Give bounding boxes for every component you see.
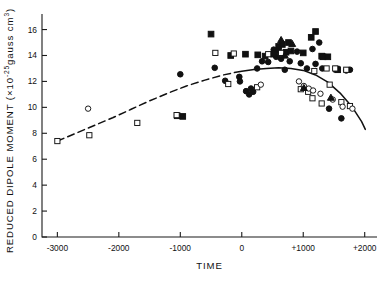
data-point-filled-square [325,54,331,60]
data-point-filled-triangle [278,36,285,42]
data-point-filled-circle [254,66,260,72]
x-tick-label-1: -2000 [108,243,130,253]
data-point-filled-circle [287,59,293,65]
series-open-circle [85,79,355,112]
data-point-filled-circle [310,46,316,52]
data-point-filled-circle [326,106,332,112]
data-point-open-square [310,96,315,101]
data-point-filled-circle [298,60,304,66]
y-tick-label-8: 16 [28,25,38,35]
data-point-filled-circle [313,61,319,67]
x-tick-label-0: -3000 [47,243,69,253]
data-point-open-square [55,138,60,143]
data-point-filled-square [313,29,319,35]
data-point-open-circle [296,79,301,84]
x-axis-title: TIME [196,260,223,271]
scatter-plot: -3000-2000-10000+1000+2000TIME0246810121… [0,0,387,282]
data-point-open-square [231,51,236,56]
data-point-filled-circle [304,66,310,72]
data-point-open-square [174,113,179,118]
data-point-filled-square [288,48,294,54]
axis-lines [42,14,377,237]
data-point-open-square [319,101,324,106]
data-point-filled-square [255,52,261,58]
y-tick-label-0: 0 [32,232,37,242]
y-tick-label-6: 12 [28,76,38,86]
y-tick-label-5: 10 [28,102,38,112]
data-point-filled-circle [212,65,218,71]
data-point-open-circle [350,106,355,111]
data-point-open-circle [258,82,263,87]
y-tick-label-1: 2 [32,206,37,216]
x-tick-label-4: +1000 [291,243,315,253]
data-point-open-square [324,66,329,71]
trend-curve-dashed [57,73,234,141]
data-point-filled-circle [294,49,300,55]
data-point-filled-circle [282,67,288,73]
data-point-open-circle [318,91,323,96]
y-tick-label-2: 4 [32,180,37,190]
data-point-open-square [87,133,92,138]
series-open-square [55,50,353,143]
data-point-filled-circle [237,79,243,85]
data-point-filled-square [243,51,249,57]
data-point-open-square [327,82,332,87]
data-point-filled-square [208,31,214,37]
data-point-filled-circle [178,71,184,77]
data-point-filled-square [300,50,306,56]
data-point-open-square [344,67,349,72]
data-point-open-square [266,52,271,57]
data-point-filled-square [308,35,314,41]
data-point-filled-square [180,114,186,120]
y-tick-label-4: 8 [32,128,37,138]
data-point-open-circle [340,104,345,109]
x-tick-label-2: -1000 [170,243,192,253]
data-point-open-square [213,50,218,55]
y-axis-title: REDUCED DIPOLE MOMENT (×10-25gauss cm3) [3,8,15,253]
x-tick-label-5: +2000 [353,243,377,253]
data-point-open-square [333,66,338,71]
data-point-filled-circle [339,116,345,122]
data-point-open-square [135,120,140,125]
y-tick-label-3: 6 [32,154,37,164]
trend-curve-solid [234,68,365,130]
data-point-open-square [226,81,231,86]
figure-container: -3000-2000-10000+1000+2000TIME0246810121… [0,0,387,282]
data-point-filled-square [271,51,277,57]
x-tick-label-3: 0 [239,243,244,253]
data-point-filled-circle [316,40,322,46]
data-point-filled-circle [265,59,271,65]
data-point-open-circle [310,88,315,93]
y-tick-label-7: 14 [28,50,38,60]
data-point-open-circle [85,106,90,111]
data-point-open-square [312,68,317,73]
